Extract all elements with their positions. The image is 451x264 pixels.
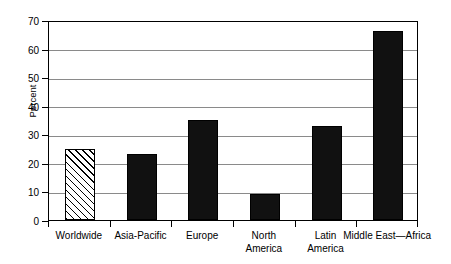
x-axis-label: Middle East—Africa xyxy=(327,229,447,242)
y-tick: 60 xyxy=(0,44,48,57)
bar[interactable] xyxy=(312,126,342,220)
x-axis-labels: WorldwideAsia-PacificEuropeNorthAmericaL… xyxy=(0,229,451,263)
y-tick-label: 0 xyxy=(33,215,39,228)
y-tick: 50 xyxy=(0,72,48,85)
x-axis-label-line: America xyxy=(266,242,386,255)
y-tick: 30 xyxy=(0,129,48,142)
bar[interactable] xyxy=(250,194,280,220)
y-tick: 10 xyxy=(0,186,48,199)
y-axis-ticks: 706050403020100 xyxy=(0,0,48,264)
y-tick: 20 xyxy=(0,158,48,171)
x-axis-ticks xyxy=(48,221,418,227)
y-tick-label: 40 xyxy=(28,101,39,114)
bar[interactable] xyxy=(127,154,157,220)
x-tick-mark xyxy=(356,221,357,227)
bar[interactable] xyxy=(65,149,95,220)
x-tick-mark xyxy=(48,221,49,227)
x-tick-mark xyxy=(295,221,296,227)
y-tick-label: 60 xyxy=(28,44,39,57)
y-tick-label: 50 xyxy=(28,72,39,85)
x-tick-mark xyxy=(233,221,234,227)
plot-area xyxy=(48,21,418,221)
y-tick: 40 xyxy=(0,101,48,114)
bar-chart: Percent 706050403020100 WorldwideAsia-Pa… xyxy=(0,0,451,264)
x-tick-mark xyxy=(417,221,418,227)
bar[interactable] xyxy=(373,31,403,220)
y-tick-label: 20 xyxy=(28,158,39,171)
y-tick: 70 xyxy=(0,15,48,28)
bar[interactable] xyxy=(188,120,218,220)
bars-layer xyxy=(49,22,417,220)
y-tick-label: 30 xyxy=(28,129,39,142)
y-tick-label: 70 xyxy=(28,15,39,28)
x-tick-mark xyxy=(171,221,172,227)
x-axis-label-line: Middle East—Africa xyxy=(327,229,447,242)
y-tick: 0 xyxy=(0,215,48,228)
y-tick-label: 10 xyxy=(28,186,39,199)
x-tick-mark xyxy=(110,221,111,227)
